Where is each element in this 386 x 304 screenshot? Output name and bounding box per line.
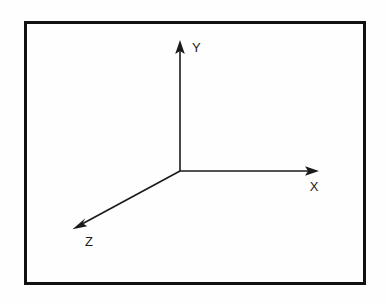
coordinate-axes-svg: Y X Z [0,0,386,304]
coordinate-axes-figure: Y X Z [0,0,386,304]
z-axis-label: Z [85,234,93,249]
x-axis-label: X [310,179,319,194]
y-axis-label: Y [192,40,201,55]
